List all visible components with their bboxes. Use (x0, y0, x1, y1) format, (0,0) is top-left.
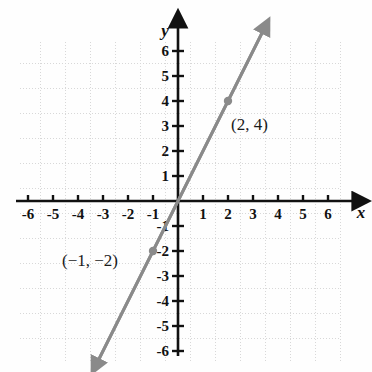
coordinate-plane-figure: -6-5-4-3-2-1123456654321-1-2-3-4-5-6 x y… (0, 0, 372, 372)
x-tick-label: 4 (274, 206, 282, 222)
y-tick-label: 6 (162, 43, 170, 59)
x-tick-label: -5 (47, 206, 60, 222)
x-tick-label: 2 (224, 206, 232, 222)
point-label-neg1-neg2: (−1, −2) (62, 251, 118, 270)
plotted-line (98, 31, 263, 361)
x-tick-label: 3 (249, 206, 257, 222)
y-tick-label: -3 (157, 268, 170, 284)
x-axis-label: x (356, 203, 366, 222)
x-tick-label: -6 (22, 206, 35, 222)
graph-canvas: -6-5-4-3-2-1123456654321-1-2-3-4-5-6 x y… (0, 0, 372, 372)
data-point-marker (149, 247, 157, 255)
y-tick-label: -6 (157, 343, 170, 359)
axis-lines (16, 26, 354, 356)
y-tick-label: -4 (157, 293, 170, 309)
y-tick-label: 5 (162, 68, 170, 84)
x-tick-label: 5 (299, 206, 307, 222)
y-tick-label: -2 (157, 243, 170, 259)
x-tick-label: -4 (72, 206, 85, 222)
y-tick-label: 2 (162, 143, 170, 159)
y-axis-label: y (159, 21, 169, 40)
x-tick-label: 1 (199, 206, 207, 222)
y-tick-label: 1 (162, 168, 170, 184)
x-tick-label: -3 (97, 206, 110, 222)
x-tick-label: 6 (324, 206, 332, 222)
x-tick-label: -2 (122, 206, 135, 222)
point-label-2-4: (2, 4) (231, 115, 268, 134)
y-tick-label: -5 (157, 318, 170, 334)
y-tick-label: 4 (162, 93, 170, 109)
y-tick-label: 3 (162, 118, 170, 134)
data-point-marker (224, 97, 232, 105)
